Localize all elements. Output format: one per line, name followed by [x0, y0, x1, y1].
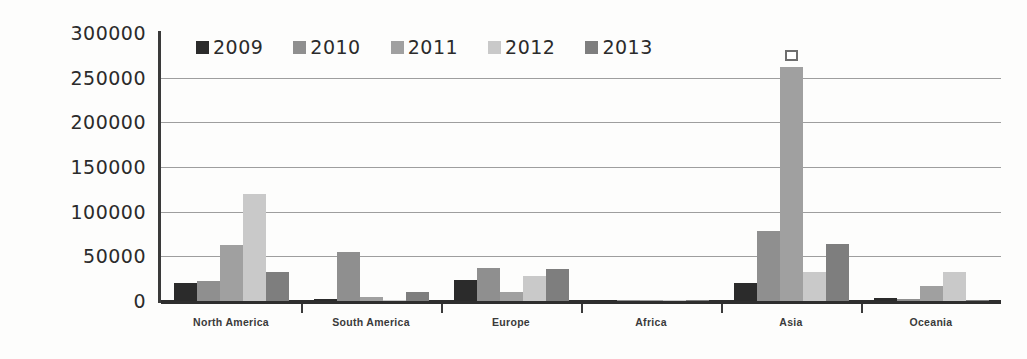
bar[interactable] — [383, 300, 406, 302]
legend-item[interactable]: 2009 — [196, 36, 263, 58]
bar[interactable] — [220, 245, 243, 301]
legend: 20092010201120122013 — [196, 36, 653, 58]
bar[interactable] — [734, 283, 757, 301]
bar[interactable] — [780, 67, 803, 301]
bar[interactable] — [523, 276, 546, 301]
y-axis-tick-label: 250000 — [70, 67, 146, 89]
selected-point-marker-icon[interactable] — [785, 50, 798, 61]
bar[interactable] — [826, 244, 849, 301]
bar[interactable] — [243, 194, 266, 301]
legend-label: 2010 — [310, 36, 360, 58]
y-axis-tick-label: 300000 — [70, 22, 146, 44]
bar-group — [161, 33, 301, 301]
x-axis-tick-mark — [861, 304, 863, 313]
x-axis-category-label: Europe — [492, 316, 530, 328]
legend-item[interactable]: 2011 — [391, 36, 458, 58]
bar[interactable] — [686, 300, 709, 302]
bar-group — [441, 33, 581, 301]
y-axis-tick-label: 50000 — [83, 245, 146, 267]
x-axis-category-label: Africa — [635, 316, 667, 328]
legend-item[interactable]: 2013 — [585, 36, 652, 58]
y-axis-tick-label: 0 — [133, 290, 146, 312]
x-axis-category-label: Asia — [779, 316, 802, 328]
x-axis-category-label: Oceania — [910, 316, 953, 328]
x-axis-category-label: North America — [193, 316, 269, 328]
bar-group — [861, 33, 1001, 301]
bar-group — [721, 33, 861, 301]
legend-swatch-icon — [488, 41, 501, 54]
bar[interactable] — [663, 300, 686, 302]
legend-swatch-icon — [196, 41, 209, 54]
y-axis-tick-label: 100000 — [70, 201, 146, 223]
legend-swatch-icon — [391, 41, 404, 54]
legend-item[interactable]: 2012 — [488, 36, 555, 58]
bar[interactable] — [406, 292, 429, 301]
bar-chart: 300000250000200000150000100000500000 Nor… — [0, 0, 1027, 359]
bar[interactable] — [803, 272, 826, 301]
bar-group — [301, 33, 441, 301]
bar[interactable] — [897, 299, 920, 301]
bar[interactable] — [757, 231, 780, 301]
bar[interactable] — [874, 298, 897, 301]
bar[interactable] — [337, 252, 360, 301]
bar[interactable] — [454, 280, 477, 301]
bar[interactable] — [360, 297, 383, 301]
bar[interactable] — [546, 269, 569, 301]
x-axis-tick-mark — [581, 304, 583, 313]
legend-swatch-icon — [293, 41, 306, 54]
x-axis-tick-mark — [721, 304, 723, 313]
plot-area — [161, 33, 1001, 301]
x-axis-tick-mark — [301, 304, 303, 313]
y-axis-tick-label: 150000 — [70, 156, 146, 178]
y-axis-tick-label: 200000 — [70, 111, 146, 133]
bar-group — [581, 33, 721, 301]
legend-swatch-icon — [585, 41, 598, 54]
legend-label: 2013 — [602, 36, 652, 58]
bar[interactable] — [640, 300, 663, 302]
bar[interactable] — [943, 272, 966, 301]
legend-label: 2009 — [213, 36, 263, 58]
y-axis-labels: 300000250000200000150000100000500000 — [0, 0, 146, 359]
bar[interactable] — [920, 286, 943, 301]
bar[interactable] — [477, 268, 500, 301]
legend-label: 2011 — [408, 36, 458, 58]
bar[interactable] — [174, 283, 197, 301]
bar[interactable] — [266, 272, 289, 301]
legend-label: 2012 — [505, 36, 555, 58]
bar[interactable] — [966, 300, 989, 302]
legend-item[interactable]: 2010 — [293, 36, 360, 58]
bar[interactable] — [617, 300, 640, 302]
bar[interactable] — [314, 299, 337, 301]
bar[interactable] — [197, 281, 220, 301]
x-axis-tick-mark — [441, 304, 443, 313]
bar[interactable] — [594, 300, 617, 302]
x-axis-category-label: South America — [332, 316, 410, 328]
bar[interactable] — [500, 292, 523, 301]
